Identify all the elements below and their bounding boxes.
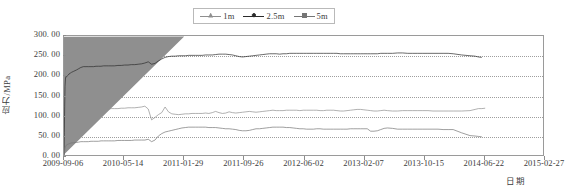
legend-label-5m: 5m (317, 12, 328, 21)
series-1m (64, 36, 485, 155)
y-tick-mark (63, 96, 66, 97)
legend-marker-square-icon (294, 12, 315, 21)
y-tick-mark (63, 35, 66, 36)
chart-legend: 1m 2.5m 5m (193, 8, 335, 24)
y-tick-mark (63, 55, 66, 56)
y-tick-label: 250. 00 (13, 50, 60, 59)
legend-marker-diamond-icon (243, 12, 264, 21)
x-axis-tick-labels: 2009-09-062010-05-142011-01-292011-09-26… (0, 158, 571, 172)
y-tick-label: 50. 00 (13, 131, 60, 140)
legend-entry-5m: 5m (294, 12, 328, 21)
series-line (64, 127, 482, 155)
x-tick-mark (183, 156, 184, 160)
x-axis-title: 日期 (506, 174, 526, 186)
y-tick-mark (63, 136, 66, 137)
series-layer (64, 36, 543, 155)
y-tick-label: 300. 00 (13, 30, 60, 39)
series-line (64, 106, 485, 155)
x-tick-mark (123, 156, 124, 160)
x-tick-mark (544, 156, 545, 160)
y-tick-mark (63, 75, 66, 76)
x-tick-mark (424, 156, 425, 160)
series-markers (64, 36, 184, 155)
y-tick-label: 200. 00 (13, 70, 60, 79)
x-tick-mark (484, 156, 485, 160)
legend-entry-1m: 1m (200, 12, 234, 21)
x-tick-mark (243, 156, 244, 160)
plot-inner (64, 36, 543, 155)
y-tick-mark (63, 116, 66, 117)
stress-vs-date-chart: 1m 2.5m 5m 应力/MPa 300. 00250. 00200. 001… (0, 0, 571, 196)
legend-marker-triangle-icon (200, 12, 221, 21)
y-tick-label: 150. 00 (13, 91, 60, 100)
x-tick-label: 2015-02-27 (504, 158, 571, 168)
x-tick-mark (304, 156, 305, 160)
y-tick-label: 100. 00 (13, 111, 60, 120)
x-tick-mark (364, 156, 365, 160)
plot-area (63, 35, 544, 156)
y-tick-mark (63, 156, 66, 157)
legend-label-2p5m: 2.5m (266, 12, 284, 21)
legend-entry-2p5m: 2.5m (243, 12, 284, 21)
legend-label-1m: 1m (223, 12, 234, 21)
